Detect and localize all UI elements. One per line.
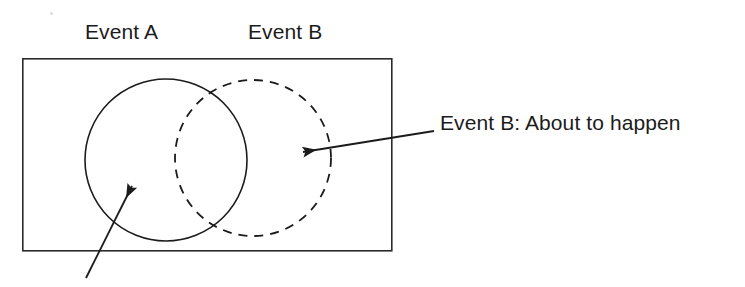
event-b-circle bbox=[175, 80, 331, 236]
diagram-canvas bbox=[0, 0, 745, 287]
event-a-circle bbox=[85, 79, 247, 241]
event-b-label: Event B bbox=[248, 21, 322, 42]
event-a-label: Event A bbox=[85, 21, 158, 42]
sample-space-rectangle bbox=[23, 59, 392, 251]
arrow-to-event-b bbox=[303, 131, 434, 152]
arrow-to-event-a bbox=[86, 186, 132, 278]
event-b-callout-label: Event B: About to happen bbox=[440, 112, 681, 133]
venn-diagram-figure: Event A Event B Event B: About to happen bbox=[0, 0, 745, 287]
scan-artifact-speck bbox=[50, 12, 53, 15]
